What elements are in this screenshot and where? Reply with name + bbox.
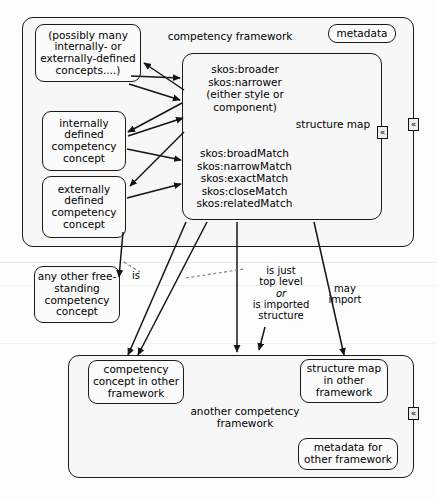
- arrow-may-import-to-other-structuremap: [314, 222, 344, 355]
- arrow-possibly-many-to-hierarchy-2: [129, 84, 180, 100]
- arrow-imported-structure-into-framework: [259, 327, 265, 350]
- arrow-externally-to-freestanding: [119, 232, 123, 277]
- arrow-externally-to-closematch: [127, 184, 181, 198]
- arrow-match-to-other-concept-1: [128, 222, 186, 355]
- arrow-internally-to-broadmatch: [127, 149, 181, 160]
- diagram-canvas: competency framework metadata structure …: [0, 0, 437, 499]
- resize-handle-outer-framework[interactable]: «: [408, 118, 419, 131]
- connector-layer: [0, 0, 437, 499]
- resize-handle-other-framework[interactable]: «: [408, 407, 419, 420]
- leader-line-is: [124, 262, 140, 272]
- arrow-possibly-many-to-hierarchy: [131, 76, 180, 78]
- arrow-match-to-other-concept-2: [138, 222, 207, 355]
- resize-handle-structure-map[interactable]: «: [377, 126, 388, 139]
- leader-line-top-level: [186, 269, 244, 278]
